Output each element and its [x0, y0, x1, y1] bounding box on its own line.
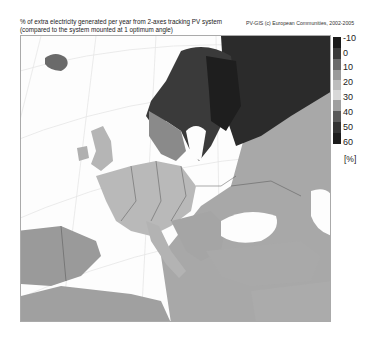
north-africa-land	[21, 286, 171, 322]
colorbar-segment	[333, 80, 341, 90]
colorbar-segment	[333, 48, 341, 59]
colorbar-segment	[333, 122, 341, 133]
colorbar-segment	[333, 100, 341, 111]
colorbar	[333, 37, 341, 144]
credit-text: PV-GIS (c) European Communities, 2002-20…	[246, 20, 354, 26]
europe-map	[20, 35, 331, 322]
iceland-land	[45, 54, 68, 71]
title-line-1: % of extra electricity generated per yea…	[20, 18, 222, 26]
colorbar-segment	[333, 111, 341, 122]
colorbar-segment	[333, 133, 341, 144]
colorbar-tick: 40	[343, 108, 353, 117]
great-britain-land	[91, 126, 113, 171]
colorbar-tick: 20	[343, 78, 353, 87]
colorbar-tick: 60	[343, 138, 353, 147]
colorbar-segment	[333, 37, 341, 48]
iberia-land	[21, 226, 101, 286]
colorbar-tick: 0	[343, 49, 348, 58]
legend-unit: [%]	[344, 154, 356, 164]
title-line-2: (compared to the system mounted at 1 opt…	[20, 26, 222, 34]
map-graphic	[21, 36, 331, 322]
colorbar-tick: 30	[343, 93, 353, 102]
colorbar-tick: 50	[343, 123, 353, 132]
colorbar-tick: 10	[343, 63, 353, 72]
map-title: % of extra electricity generated per yea…	[20, 18, 222, 33]
ireland-land	[77, 146, 89, 161]
colorbar-tick: -10	[343, 34, 356, 43]
colorbar-segment	[333, 70, 341, 80]
colorbar-segment	[333, 59, 341, 70]
colorbar-segment	[333, 90, 341, 100]
